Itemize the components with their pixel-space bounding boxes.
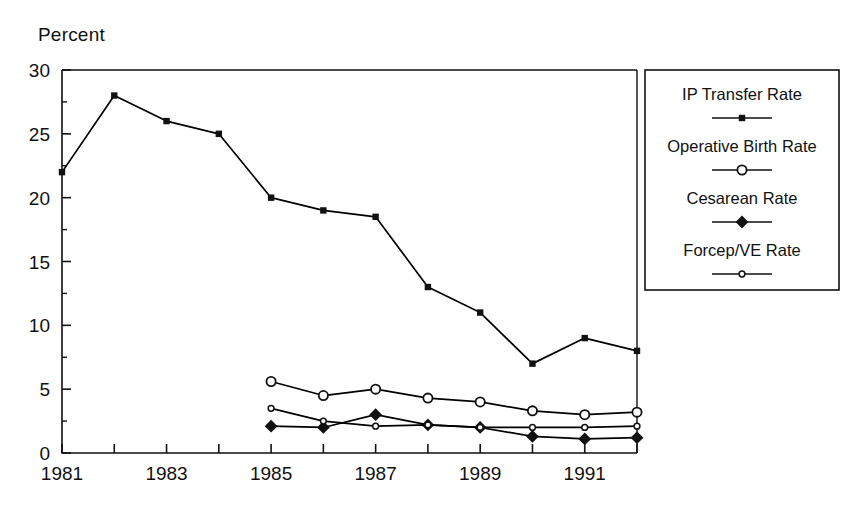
series-1-point: [580, 410, 589, 419]
series-0-point: [425, 284, 431, 290]
series-3-point: [477, 425, 483, 431]
series-1-point: [632, 408, 641, 417]
series-0-point: [216, 131, 222, 137]
series-line-0: [62, 96, 637, 364]
series-0-point: [320, 207, 326, 213]
series-1-point: [319, 391, 328, 400]
legend-marker-3: [739, 271, 745, 277]
y-tick-label: 25: [29, 124, 50, 145]
legend-label-1: Operative Birth Rate: [667, 137, 816, 155]
series-3-point: [530, 425, 536, 431]
series-3-point: [373, 423, 379, 429]
chart-root: Percent 05101520253019811983198519871989…: [0, 0, 856, 509]
x-tick-label: 1981: [41, 463, 83, 484]
series-1-point: [266, 377, 275, 386]
series-3-point: [268, 405, 274, 411]
series-0-point: [111, 92, 117, 98]
series-1-point: [371, 385, 380, 394]
x-tick-label: 1987: [354, 463, 396, 484]
x-tick-label: 1989: [459, 463, 501, 484]
y-tick-label: 10: [29, 315, 50, 336]
series-2-point: [578, 433, 591, 446]
series-2-point: [631, 431, 644, 444]
legend-marker-0: [739, 115, 745, 121]
series-1-point: [528, 406, 537, 415]
series-3-point: [634, 423, 640, 429]
series-2-point: [369, 408, 382, 421]
y-tick-label: 0: [39, 443, 50, 464]
y-tick-label: 5: [39, 379, 50, 400]
series-1-point: [423, 394, 432, 403]
series-0-point: [477, 309, 483, 315]
x-tick-label: 1985: [250, 463, 292, 484]
axis-spines: [62, 70, 637, 453]
y-tick-label: 30: [29, 60, 50, 81]
legend-label-2: Cesarean Rate: [687, 189, 798, 207]
series-0-point: [268, 194, 274, 200]
series-0-point: [163, 118, 169, 124]
legend-marker-1: [737, 165, 746, 174]
series-0-point: [634, 348, 640, 354]
series-0-point: [372, 214, 378, 220]
line-chart: 051015202530198119831985198719891991IP T…: [0, 0, 856, 509]
series-3-point: [425, 422, 431, 428]
y-tick-label: 20: [29, 188, 50, 209]
series-2-point: [526, 430, 539, 443]
series-0-point: [582, 335, 588, 341]
series-0-point: [59, 169, 65, 175]
x-tick-label: 1991: [564, 463, 606, 484]
series-3-point: [582, 425, 588, 431]
series-2-point: [265, 420, 278, 433]
series-1-point: [476, 397, 485, 406]
series-3-point: [320, 418, 326, 424]
legend-label-3: Forcep/VE Rate: [683, 241, 800, 259]
y-tick-label: 15: [29, 252, 50, 273]
x-tick-label: 1983: [145, 463, 187, 484]
legend-label-0: IP Transfer Rate: [682, 85, 802, 103]
series-0-point: [529, 360, 535, 366]
